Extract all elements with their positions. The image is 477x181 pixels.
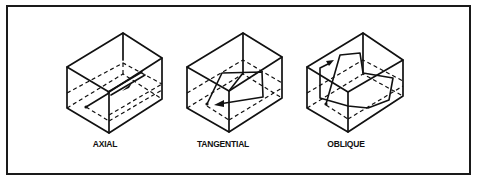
axial-label: AXIAL xyxy=(93,139,118,149)
axial-box-icon xyxy=(67,33,162,133)
tangential-arrow-icon xyxy=(214,100,224,107)
tangential-mode-figure: TANGENTIAL xyxy=(187,33,282,149)
oblique-box-icon xyxy=(307,33,403,132)
axial-wave-path xyxy=(84,72,145,109)
tangential-box-icon xyxy=(187,33,282,132)
tangential-label: TANGENTIAL xyxy=(197,139,249,149)
oblique-mode-figure: OBLIQUE xyxy=(307,33,403,149)
oblique-wave-path xyxy=(320,53,393,108)
room-modes-diagram: AXIAL TANGENTIAL xyxy=(0,0,477,181)
axial-mode-figure: AXIAL xyxy=(67,33,162,149)
oblique-label: OBLIQUE xyxy=(327,139,365,149)
